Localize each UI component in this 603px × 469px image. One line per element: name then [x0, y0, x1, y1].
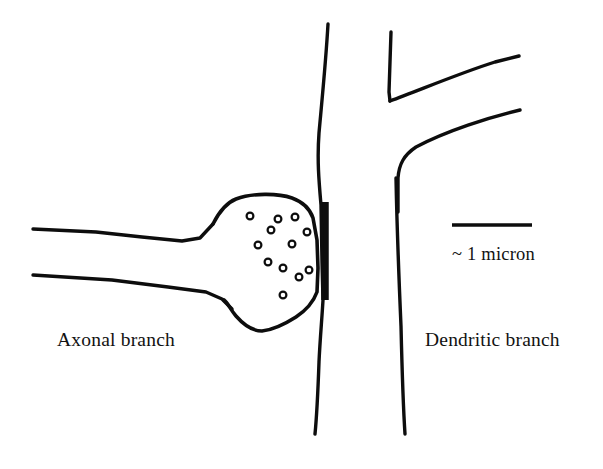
dendritic-branch-label: Dendritic branch	[425, 330, 560, 350]
synaptic-vesicle	[275, 216, 282, 223]
dendritic-branch-group	[315, 24, 520, 434]
scale-bar-caption: ~ 1 micron	[452, 245, 535, 264]
synaptic-vesicle	[280, 265, 287, 272]
dendrite-right-membrane-line	[396, 178, 405, 434]
axonal-branch-group	[33, 194, 318, 331]
synaptic-vesicle	[296, 274, 303, 281]
dendrite-branch-lower-curve	[398, 110, 520, 212]
axon-lower-membrane-line	[33, 275, 232, 309]
axon-upper-membrane-line	[33, 224, 213, 241]
synapse-diagram-figure: Axonal branch Dendritic branch ~ 1 micro…	[0, 0, 603, 469]
synaptic-vesicle	[292, 214, 299, 221]
diagram-canvas	[0, 0, 603, 469]
synaptic-vesicle	[255, 242, 262, 249]
dendrite-branch-upper-left-arm	[389, 32, 391, 101]
synaptic-vesicle	[289, 241, 296, 248]
dendrite-branch-upper-right-arm	[390, 56, 519, 101]
synaptic-vesicle	[265, 259, 272, 266]
synaptic-vesicle	[247, 213, 254, 220]
synaptic-vesicle-group	[247, 213, 313, 299]
synaptic-vesicle	[268, 227, 275, 234]
axonal-branch-label: Axonal branch	[57, 330, 175, 350]
synaptic-vesicle	[280, 292, 287, 299]
synaptic-vesicle	[304, 229, 311, 236]
synaptic-vesicle	[306, 267, 313, 274]
